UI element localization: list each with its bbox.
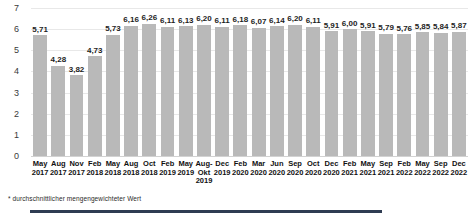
y-tick-label-5: 5 (14, 46, 19, 55)
x-tick-label: Feb2019 (158, 160, 176, 177)
bar-slot: 6,00 (341, 8, 359, 156)
x-tick-year: 2020 (268, 169, 286, 178)
x-tick-label: Nov2017 (67, 160, 85, 177)
bar-slot: 6,13 (177, 8, 195, 156)
bar[interactable] (252, 28, 266, 156)
x-tick-year: 2019 (158, 169, 176, 178)
bar-value-label: 6,16 (123, 16, 139, 24)
x-tick-year: 2021 (341, 169, 359, 178)
x-tick-label: May2018 (104, 160, 122, 177)
bar[interactable] (88, 56, 102, 156)
x-tick-year: 2017 (67, 169, 85, 178)
bar-value-label: 5,84 (433, 23, 449, 31)
bar-slot: 4,28 (49, 8, 67, 156)
bar-slot: 6,07 (250, 8, 268, 156)
bar[interactable] (397, 34, 411, 156)
x-tick-label: Sep2021 (377, 160, 395, 177)
bar[interactable] (361, 31, 375, 156)
bar-value-label: 6,20 (196, 15, 212, 23)
bar-slot: 6,20 (195, 8, 213, 156)
bar[interactable] (142, 24, 156, 156)
bar-value-label: 5,91 (324, 22, 340, 30)
bar-value-label: 6,13 (178, 17, 194, 25)
bar[interactable] (343, 29, 357, 156)
bar[interactable] (51, 66, 65, 156)
x-tick-year: 2018 (122, 169, 140, 178)
x-tick-label: Feb2020 (231, 160, 249, 177)
x-tick-label: Dec2020 (322, 160, 340, 177)
x-tick-year: 2018 (104, 169, 122, 178)
bar-slot: 5,91 (322, 8, 340, 156)
x-tick-year: 2017 (31, 169, 49, 178)
bar-value-label: 5,87 (451, 22, 467, 30)
x-tick-year: 2020 (304, 169, 322, 178)
bar-slot: 6,11 (304, 8, 322, 156)
bar-slot: 5,73 (104, 8, 122, 156)
bar-value-label: 6,11 (215, 17, 230, 25)
bar-slot: 6,26 (140, 8, 158, 156)
bar[interactable] (106, 35, 120, 156)
bar-slot: 6,18 (231, 8, 249, 156)
y-tick-label-2: 2 (14, 109, 19, 118)
bar[interactable] (416, 32, 430, 156)
x-tick-year: 2017 (49, 169, 67, 178)
gridline-0 (31, 156, 468, 157)
x-tick-year: 2020 (250, 169, 268, 178)
bar[interactable] (215, 27, 229, 156)
bar[interactable] (161, 27, 175, 156)
bar-slot: 6,20 (286, 8, 304, 156)
x-tick-label: Sep2022 (432, 160, 450, 177)
bar[interactable] (306, 27, 320, 156)
x-tick-label: Feb2021 (341, 160, 359, 177)
x-tick-year: 2021 (377, 169, 395, 178)
x-tick-year: 2022 (432, 169, 450, 178)
bar-value-label: 3,82 (69, 66, 85, 74)
x-tick-label: Aug-Okt2019 (195, 160, 213, 186)
bar-slot: 5,79 (377, 8, 395, 156)
bar-slot: 5,84 (432, 8, 450, 156)
bar[interactable] (33, 35, 47, 156)
bar[interactable] (197, 25, 211, 156)
bar-value-label: 6,11 (306, 17, 321, 25)
x-tick-label: Oct2020 (304, 160, 322, 177)
bar[interactable] (379, 34, 393, 156)
bar[interactable] (124, 26, 138, 156)
x-tick-label: Sep2020 (286, 160, 304, 177)
x-tick-label: May2022 (413, 160, 431, 177)
bar-slot: 5,91 (359, 8, 377, 156)
bar-slot: 5,85 (413, 8, 431, 156)
bar-value-label: 6,00 (342, 20, 358, 28)
x-tick-year-second-line: 2019 (195, 177, 213, 186)
bar-value-label: 6,07 (251, 18, 267, 26)
x-tick-year: 2022 (395, 169, 413, 178)
x-tick-label: Feb2022 (395, 160, 413, 177)
x-tick-year: 2018 (86, 169, 104, 178)
bar[interactable] (325, 31, 339, 156)
y-tick-label-4: 4 (14, 67, 19, 76)
bar[interactable] (70, 75, 84, 156)
bar-slot: 6,14 (268, 8, 286, 156)
bar-value-label: 4,73 (87, 47, 103, 55)
bar[interactable] (288, 25, 302, 156)
bar-value-label: 5,76 (396, 25, 412, 33)
bar-value-label: 6,11 (160, 17, 175, 25)
bar-value-label: 5,71 (32, 26, 48, 34)
bar-series: 5,714,283,824,735,736,166,266,116,136,20… (31, 8, 468, 156)
bar-value-label: 4,28 (51, 56, 67, 64)
y-tick-label-1: 1 (14, 130, 19, 139)
bar[interactable] (270, 26, 284, 156)
bar[interactable] (434, 33, 448, 156)
bar-value-label: 5,79 (378, 24, 394, 32)
x-tick-year: 2022 (450, 169, 468, 178)
bar-value-label: 6,26 (142, 14, 158, 22)
bar-value-label: 6,14 (269, 17, 285, 25)
bar[interactable] (452, 32, 466, 156)
x-tick-label: May2021 (359, 160, 377, 177)
bar[interactable] (233, 25, 247, 156)
bar[interactable] (179, 26, 193, 156)
bar-chart: 01234567 5,714,283,824,735,736,166,266,1… (0, 0, 472, 213)
bar-value-label: 6,18 (233, 16, 249, 24)
x-tick-label: Aug2017 (49, 160, 67, 177)
footnote: * durchschnittlicher mengengewichteter W… (8, 195, 141, 202)
x-tick-year: 2021 (359, 169, 377, 178)
